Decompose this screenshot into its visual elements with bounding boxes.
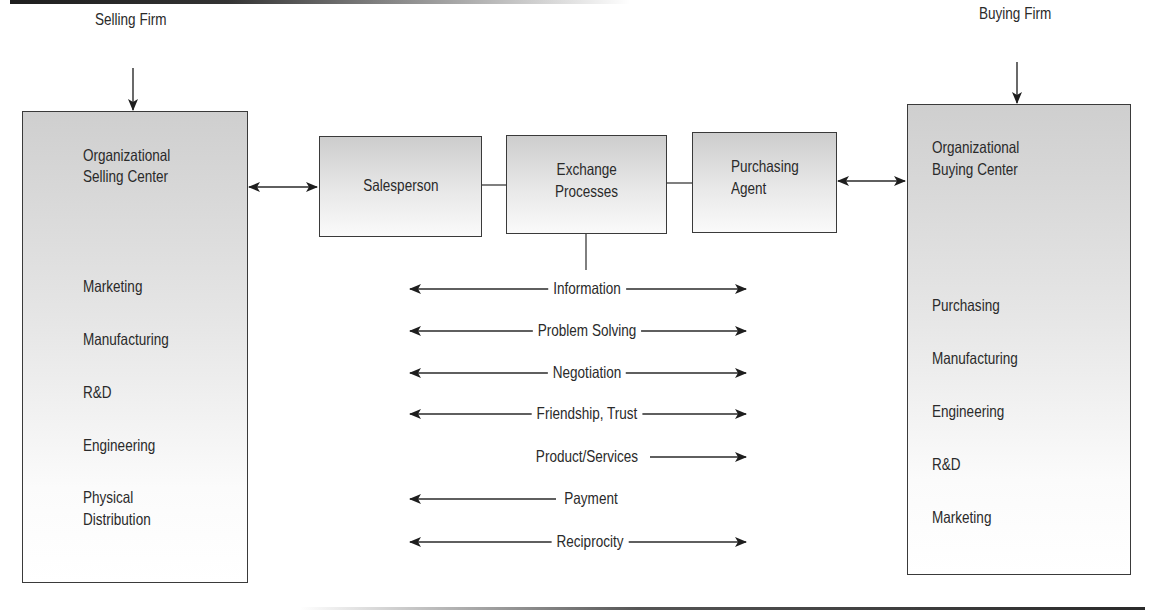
buying-function: Marketing xyxy=(932,507,991,528)
buying-center-box: Organizational Buying Center Purchasing … xyxy=(907,104,1131,575)
selling-center-title-1: Organizational xyxy=(83,145,170,166)
buying-firm-label: Buying Firm xyxy=(979,4,1051,23)
buying-function: Engineering xyxy=(932,401,1004,422)
selling-function: R&D xyxy=(83,382,112,403)
agent-label-1: Purchasing xyxy=(731,156,799,177)
buying-center-title-1: Organizational xyxy=(932,137,1019,158)
selling-center-title-2: Selling Center xyxy=(83,166,168,187)
flow-reciprocity: Reciprocity xyxy=(552,531,629,551)
selling-function: Marketing xyxy=(83,276,142,297)
salesperson-box: Salesperson xyxy=(319,136,482,237)
selling-function: Physical xyxy=(83,487,133,508)
selling-function: Engineering xyxy=(83,435,155,456)
exchange-processes-box: Exchange Processes xyxy=(506,135,667,234)
exchange-label-2: Processes xyxy=(507,181,666,202)
purchasing-agent-box: Purchasing Agent xyxy=(692,132,837,233)
selling-center-box: Organizational Selling Center Marketing … xyxy=(22,111,248,583)
buying-function: R&D xyxy=(932,454,961,475)
buying-function: Manufacturing xyxy=(932,348,1018,369)
selling-function: Manufacturing xyxy=(83,329,169,350)
flow-problem-solving: Problem Solving xyxy=(533,320,641,340)
selling-function: Distribution xyxy=(83,509,151,530)
buying-function: Purchasing xyxy=(932,295,1000,316)
agent-label-2: Agent xyxy=(731,178,766,199)
flow-negotiation: Negotiation xyxy=(548,362,626,382)
flow-payment: Payment xyxy=(559,488,622,508)
salesperson-label: Salesperson xyxy=(320,175,481,196)
flow-information: Information xyxy=(548,278,626,298)
selling-firm-label: Selling Firm xyxy=(95,10,166,29)
flow-product-services: Product/Services xyxy=(531,446,643,466)
flow-friendship-trust: Friendship, Trust xyxy=(532,403,643,423)
buying-center-title-2: Buying Center xyxy=(932,159,1018,180)
exchange-label-1: Exchange xyxy=(507,159,666,180)
